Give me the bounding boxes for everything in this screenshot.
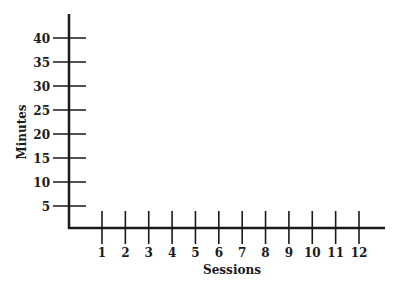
x-tick-label: 10 xyxy=(304,246,321,260)
x-axis: 123456789101112 xyxy=(68,211,385,260)
x-tick-label: 9 xyxy=(285,246,293,260)
x-tick-label: 6 xyxy=(215,246,223,260)
x-tick-label: 8 xyxy=(261,246,269,260)
y-tick-label: 5 xyxy=(42,200,50,214)
y-tick-label: 20 xyxy=(33,128,50,142)
x-axis-title: Sessions xyxy=(203,263,261,277)
y-axis-title: Minutes xyxy=(15,104,29,159)
x-tick-label: 1 xyxy=(98,246,106,260)
y-axis: 510152025303540 xyxy=(33,14,86,229)
x-tick-label: 2 xyxy=(121,246,129,260)
y-tick-label: 40 xyxy=(33,32,50,46)
x-tick-label: 5 xyxy=(191,246,199,260)
y-tick-label: 30 xyxy=(33,80,50,94)
y-tick-label: 10 xyxy=(33,176,50,190)
x-tick-label: 11 xyxy=(327,246,344,260)
y-tick-label: 35 xyxy=(33,56,50,70)
x-tick-label: 12 xyxy=(351,246,368,260)
x-tick-label: 4 xyxy=(168,246,176,260)
y-tick-label: 25 xyxy=(33,104,50,118)
x-tick-label: 3 xyxy=(145,246,153,260)
y-tick-label: 15 xyxy=(33,152,50,166)
x-tick-label: 7 xyxy=(238,246,246,260)
chart: 510152025303540 123456789101112 Minutes … xyxy=(0,0,403,288)
